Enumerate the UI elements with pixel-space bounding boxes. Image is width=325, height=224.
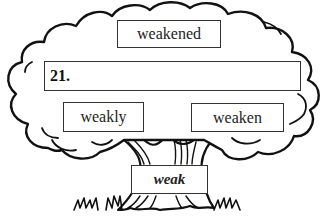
branch-word-label: weakly: [80, 109, 126, 125]
root-word-box: weak: [131, 165, 208, 194]
branch-word-label: weakened: [137, 26, 201, 42]
branch-word-weaken: weaken: [191, 103, 284, 132]
question-number: 21.: [50, 68, 70, 84]
branch-word-label: weaken: [213, 110, 262, 126]
root-word-label: weak: [154, 172, 186, 187]
answer-box[interactable]: 21.: [44, 61, 301, 91]
branch-word-weakly: weakly: [63, 102, 144, 132]
branch-word-weakened: weakened: [117, 20, 221, 48]
answer-input[interactable]: [70, 61, 300, 91]
